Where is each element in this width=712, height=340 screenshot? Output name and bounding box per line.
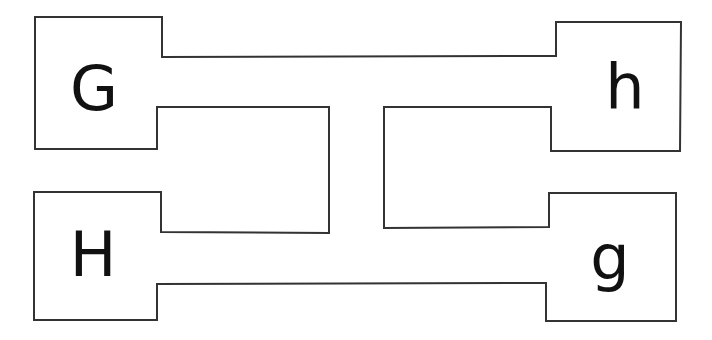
outline-path bbox=[34, 17, 681, 321]
node-label-G: G bbox=[70, 58, 118, 120]
node-label-g: g bbox=[590, 227, 629, 289]
node-label-h: h bbox=[605, 56, 644, 118]
node-label-H: H bbox=[70, 224, 117, 286]
